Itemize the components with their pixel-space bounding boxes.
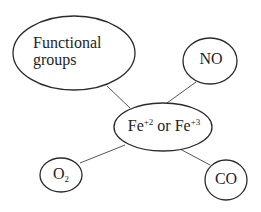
fe-prefix: Fe [128, 117, 144, 134]
co-text: CO [215, 170, 237, 187]
no-text: NO [199, 50, 222, 67]
diagram-canvas: Functional groups NO Fe+2 or Fe+3 O2 CO [0, 0, 261, 212]
edge-no-to-fe [167, 82, 196, 103]
o2-subscript: 2 [65, 174, 70, 184]
node-no-label: NO [195, 51, 227, 68]
node-co-label: CO [210, 171, 242, 188]
node-fe-label: Fe+2 or Fe+3 [118, 118, 210, 135]
edge-functional-groups-to-fe [107, 86, 130, 108]
fe-oxidation-2: +2 [144, 117, 154, 127]
fe-oxidation-3: +3 [191, 117, 201, 127]
fe-mid: or Fe [153, 117, 190, 134]
edge-co-to-fe [180, 149, 210, 165]
functional-groups-line1: Functional [33, 35, 101, 52]
functional-groups-line2: groups [33, 52, 101, 69]
node-functional-groups-label: Functional groups [33, 35, 101, 69]
edge-o2-to-fe [80, 145, 125, 163]
node-o2-label: O2 [46, 166, 76, 184]
o2-base: O [53, 165, 65, 182]
